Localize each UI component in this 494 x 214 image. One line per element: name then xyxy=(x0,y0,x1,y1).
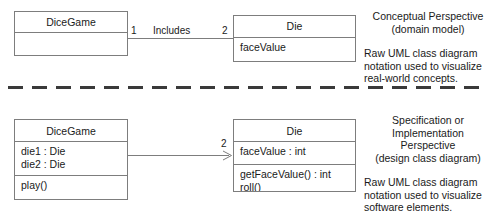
association-name-conceptual: Includes xyxy=(153,25,190,36)
annotation-heading-line: Perspective xyxy=(364,139,492,152)
class-attribute: die1 : Die xyxy=(21,145,127,158)
annotation-body: Raw UML class diagram notation used to v… xyxy=(364,47,492,85)
annotation-conceptual: Conceptual Perspective (domain model) Ra… xyxy=(364,10,492,85)
arrowhead-icon xyxy=(222,150,231,159)
class-name-label: Die xyxy=(287,20,303,32)
class-operation: play() xyxy=(21,179,127,192)
annotation-heading: Specification or Implementation Perspect… xyxy=(364,114,492,164)
class-name-compartment: Die xyxy=(234,120,355,142)
class-attributes-compartment: faceValue xyxy=(234,38,355,61)
annotation-body-line: software elements. xyxy=(364,201,492,214)
class-name-compartment: Die xyxy=(234,16,355,38)
annotation-heading-line: Implementation xyxy=(364,127,492,140)
annotation-specification: Specification or Implementation Perspect… xyxy=(364,114,492,214)
annotation-body-line: notation used to visualize xyxy=(364,60,492,73)
class-name-compartment: DiceGame xyxy=(15,120,127,142)
annotation-body-line: Raw UML class diagram xyxy=(364,47,492,60)
class-attribute: faceValue xyxy=(240,41,355,54)
annotation-gap xyxy=(364,164,492,176)
class-attribute: die2 : Die xyxy=(21,158,127,171)
class-attributes-compartment: faceValue : int xyxy=(234,142,355,164)
annotation-body: Raw UML class diagram notation used to v… xyxy=(364,176,492,214)
class-name-label: Die xyxy=(287,125,303,137)
class-box-dicegame-conceptual[interactable]: DiceGame xyxy=(14,11,128,56)
annotation-heading-line: Specification or xyxy=(364,114,492,127)
class-box-die-conceptual[interactable]: Die faceValue xyxy=(233,15,356,62)
annotation-body-line: Raw UML class diagram xyxy=(364,176,492,189)
annotation-gap xyxy=(364,35,492,47)
annotation-heading-line: (design class diagram) xyxy=(364,152,492,165)
class-name-compartment: DiceGame xyxy=(15,12,127,33)
class-operation: roll() xyxy=(240,181,355,191)
class-attributes-compartment xyxy=(15,33,127,55)
annotation-heading: Conceptual Perspective (domain model) xyxy=(364,10,492,35)
class-box-dicegame-specification[interactable]: DiceGame die1 : Die die2 : Die play() xyxy=(14,119,128,200)
annotation-body-line: real-world concepts. xyxy=(364,72,492,85)
multiplicity-target-conceptual: 2 xyxy=(222,25,228,36)
annotation-heading-line: Conceptual Perspective xyxy=(364,10,492,23)
annotation-body-line: notation used to visualize xyxy=(364,189,492,202)
annotation-heading-line: (domain model) xyxy=(364,23,492,36)
class-name-label: DiceGame xyxy=(46,125,96,137)
association-line-conceptual xyxy=(128,38,233,39)
association-line-specification xyxy=(128,155,229,156)
uml-diagram-canvas: DiceGame 1 Includes 2 Die faceValue Conc… xyxy=(0,0,494,214)
class-name-label: DiceGame xyxy=(46,16,96,28)
class-attributes-compartment: die1 : Die die2 : Die xyxy=(15,142,127,175)
class-attribute: faceValue : int xyxy=(240,145,355,158)
class-operations-compartment: getFaceValue() : int roll() xyxy=(234,165,355,191)
multiplicity-target-specification: 2 xyxy=(221,138,227,149)
class-operations-compartment: play() xyxy=(15,176,127,199)
multiplicity-source-conceptual: 1 xyxy=(131,25,137,36)
section-divider xyxy=(8,86,488,89)
class-box-die-specification[interactable]: Die faceValue : int getFaceValue() : int… xyxy=(233,119,356,192)
class-operation: getFaceValue() : int xyxy=(240,168,355,181)
